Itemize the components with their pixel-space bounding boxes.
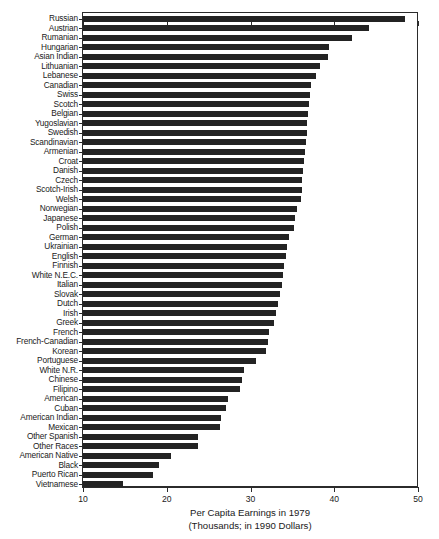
bar [83,16,405,22]
bar-row-tick [79,361,83,362]
x-tick-30 [251,487,252,492]
bar-row-tick [79,323,83,324]
bar-row-tick [79,190,83,191]
bar [83,82,311,88]
bar-row-tick [79,389,83,390]
bar-row-tick [79,275,83,276]
bar [83,291,280,297]
bar [83,405,226,411]
bar [83,244,287,250]
bar-row-tick [79,228,83,229]
bar-row-tick [79,19,83,20]
bar-row-tick [79,256,83,257]
bar-row-tick [79,123,83,124]
bar [83,424,220,430]
bar [83,310,276,316]
bar-row-tick [79,484,83,485]
bar [83,187,302,193]
bar-row-tick [79,209,83,210]
x-tick-50 [418,487,419,492]
bar-row-tick [79,66,83,67]
bar-row-tick [79,114,83,115]
bar [83,101,309,107]
bar [83,54,328,60]
x-tick-label-40: 40 [321,494,347,504]
bar [83,301,278,307]
bar-row-tick [79,266,83,267]
bar-row-tick [79,332,83,333]
bar [83,263,284,269]
bar [83,92,310,98]
x-tick-40 [334,487,335,492]
bar [83,234,289,240]
bar [83,358,256,364]
bar [83,44,329,50]
bar-row-tick [79,304,83,305]
bar-row-tick [79,180,83,181]
x-tick-20 [167,487,168,492]
bar-row-tick [79,142,83,143]
bar-row-tick [79,237,83,238]
x-axis-title-line2: (Thousands; in 1990 Dollars) [82,519,418,532]
bar [83,120,307,126]
bar [83,386,240,392]
x-tick-label-10: 10 [70,494,96,504]
bar [83,396,228,402]
x-tick-label-50: 50 [405,494,431,504]
bar-row-tick [79,294,83,295]
bar-row-tick [79,247,83,248]
bar-row-tick [79,342,83,343]
bar [83,215,295,221]
bar-row-tick [79,161,83,162]
bar [83,130,307,136]
bar-row-tick [79,133,83,134]
bar [83,367,244,373]
x-axis-title: Per Capita Earnings in 1979 (Thousands; … [82,506,418,532]
bar [83,225,294,231]
bar-chart: RussianAustrianRumanianHungarianAsian In… [0,0,439,539]
bar-row-tick [79,285,83,286]
bar [83,453,171,459]
bar-row-tick [79,351,83,352]
bar [83,139,306,145]
bar [83,320,274,326]
bar-row-tick [79,199,83,200]
bar [83,272,283,278]
bar-row-tick [79,446,83,447]
bar [83,35,352,41]
bar-row-tick [79,218,83,219]
bar-row-tick [79,437,83,438]
bar-row-tick [79,76,83,77]
bar [83,348,266,354]
bar-row-tick [79,370,83,371]
bar-row-tick [79,465,83,466]
bar-row-tick [79,28,83,29]
bar [83,329,269,335]
bar [83,434,198,440]
bar-row-tick [79,313,83,314]
bar-row-label: Vietnamese [0,480,78,490]
bar [83,415,221,421]
x-tick-10 [83,487,84,492]
bar [83,339,268,345]
x-tick-label-20: 20 [154,494,180,504]
x-axis-title-line1: Per Capita Earnings in 1979 [82,506,418,519]
bar-row-tick [79,57,83,58]
bar-row-tick [79,47,83,48]
bar-row-tick [79,380,83,381]
bar [83,282,282,288]
bar-row-tick [79,408,83,409]
x-tick-label-30: 30 [238,494,264,504]
bar [83,377,242,383]
bar-row-tick [79,418,83,419]
bar [83,25,369,31]
bar [83,443,198,449]
bar-row-tick [79,95,83,96]
bar-row-tick [79,427,83,428]
bar [83,111,308,117]
bar [83,63,320,69]
bar [83,206,297,212]
bar-row-tick [79,104,83,105]
bar-row-tick [79,85,83,86]
bar [83,158,304,164]
